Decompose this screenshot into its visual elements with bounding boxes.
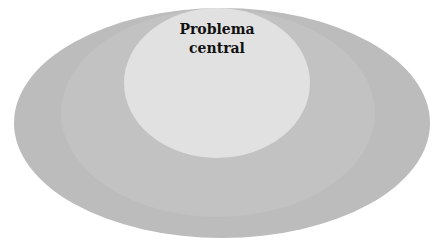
- label-line-1: Problema: [147, 20, 287, 39]
- central-problem-label: Problema central: [147, 20, 287, 58]
- label-line-2: central: [147, 39, 287, 58]
